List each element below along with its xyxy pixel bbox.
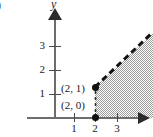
y-tick-label-1: 1 [35, 87, 45, 99]
x-tick-label-1: 1 [69, 122, 79, 134]
x-axis-line [27, 117, 140, 119]
point-marker-2-0 [92, 114, 99, 121]
y-axis-line [54, 16, 56, 118]
y-tick-1 [49, 94, 61, 95]
y-axis-label: y [51, 0, 56, 12]
y-tick-2 [49, 70, 61, 71]
y-tick-label-2: 2 [35, 63, 45, 75]
region-fill [95, 33, 153, 118]
y-tick-3 [49, 46, 61, 47]
point-label-2-0: (2, 0) [61, 99, 85, 111]
x-tick-1 [74, 113, 75, 122]
x-tick-3 [117, 113, 118, 122]
point-marker-2-1 [92, 84, 99, 91]
x-tick-label-3: 3 [112, 122, 122, 134]
graph-figure: ) y 3 2 1 1 2 3 (2, 1) (2, 0) [0, 0, 153, 137]
point-label-2-1: (2, 1) [61, 82, 85, 94]
y-tick-label-3: 3 [35, 39, 45, 51]
x-tick-label-2: 2 [90, 122, 100, 134]
x-axis-arrow-icon [138, 112, 150, 124]
